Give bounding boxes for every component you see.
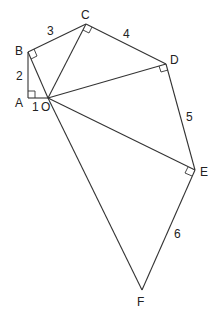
segment-OD: [48, 64, 166, 98]
point-label-E: E: [200, 165, 208, 179]
point-label-C: C: [81, 8, 90, 22]
point-label-D: D: [170, 53, 179, 67]
point-label-O: O: [41, 100, 50, 114]
length-label-OA: 1: [32, 100, 39, 114]
point-label-B: B: [15, 44, 23, 58]
length-label-DE: 5: [186, 110, 193, 124]
point-label-F: F: [137, 295, 144, 309]
segment-BC: [28, 24, 86, 52]
segment-OF: [48, 98, 142, 290]
length-label-AB: 2: [16, 69, 23, 83]
length-label-EF: 6: [174, 227, 181, 241]
geometry-diagram: A B C D E F O 1 2 3 4 5 6: [0, 0, 223, 311]
segment-OC: [48, 24, 86, 98]
right-angle-A: [28, 91, 35, 98]
segment-EF: [142, 170, 195, 290]
length-label-CD: 4: [123, 27, 130, 41]
segment-OE: [48, 98, 195, 170]
point-label-A: A: [15, 96, 23, 110]
length-label-BC: 3: [47, 24, 54, 38]
